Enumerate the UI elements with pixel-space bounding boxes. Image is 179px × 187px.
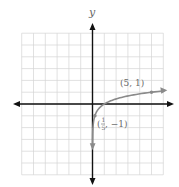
log-graph: y (5, 1) ( 1 5 , −1) (0, 0, 179, 187)
curve-down-arrow-icon (90, 143, 96, 150)
y-axis-down-arrow-icon (90, 178, 96, 185)
data-point (150, 90, 154, 94)
point-b-open-paren: ( (97, 119, 101, 129)
x-axis-right-arrow-icon (167, 101, 174, 107)
y-axis-up-arrow-icon (90, 23, 96, 30)
axes (13, 23, 174, 185)
point-label-fifth-neg1: ( 1 5 , −1) (97, 116, 128, 131)
y-axis-label: y (88, 6, 96, 19)
x-axis-left-arrow-icon (13, 101, 20, 107)
point-label-5-1: (5, 1) (120, 78, 144, 88)
curve-right-arrow-icon (160, 87, 167, 93)
point-b-rest: , −1) (105, 119, 128, 129)
data-point (93, 114, 97, 118)
